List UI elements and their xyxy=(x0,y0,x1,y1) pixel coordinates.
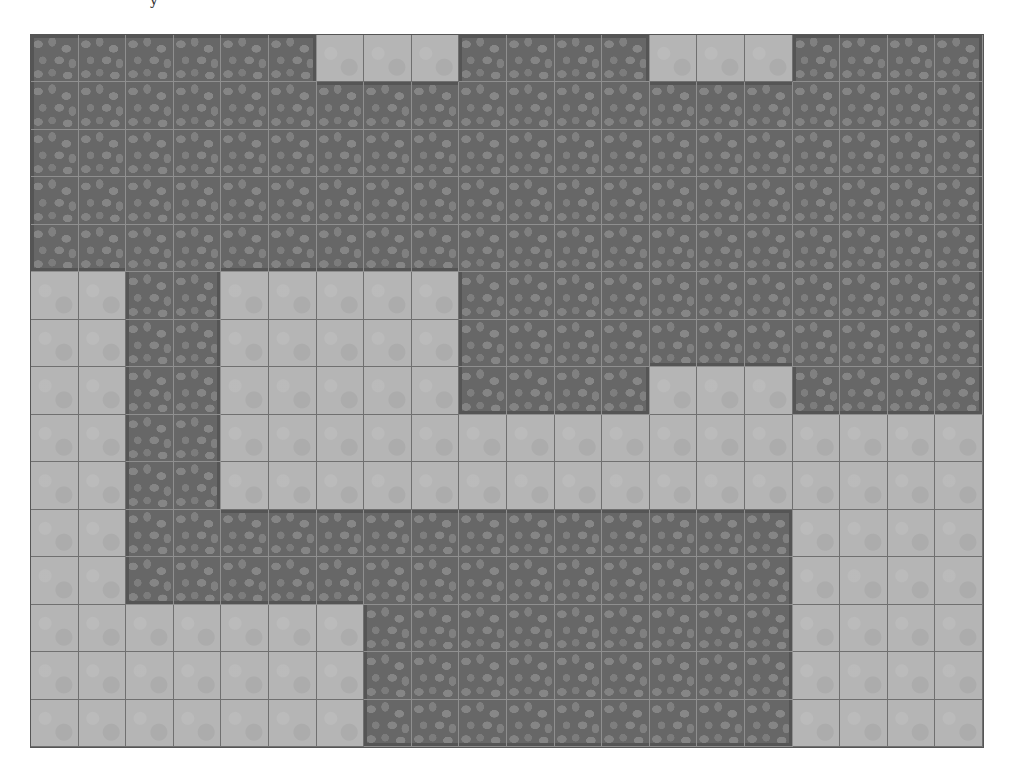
stone-wall-tile[interactable] xyxy=(507,35,555,82)
stone-wall-tile[interactable] xyxy=(555,82,603,129)
floor-tile[interactable] xyxy=(221,415,269,462)
stone-wall-tile[interactable] xyxy=(602,557,650,604)
stone-wall-tile[interactable] xyxy=(269,130,317,177)
floor-tile[interactable] xyxy=(745,367,793,414)
stone-wall-tile[interactable] xyxy=(745,272,793,319)
floor-tile[interactable] xyxy=(317,35,365,82)
stone-wall-tile[interactable] xyxy=(31,82,79,129)
floor-tile[interactable] xyxy=(745,415,793,462)
stone-wall-tile[interactable] xyxy=(745,700,793,747)
floor-tile[interactable] xyxy=(888,700,936,747)
stone-wall-tile[interactable] xyxy=(793,272,841,319)
stone-wall-tile[interactable] xyxy=(317,130,365,177)
floor-tile[interactable] xyxy=(697,367,745,414)
floor-tile[interactable] xyxy=(935,605,983,652)
stone-wall-tile[interactable] xyxy=(697,130,745,177)
stone-wall-tile[interactable] xyxy=(793,225,841,272)
stone-wall-tile[interactable] xyxy=(507,177,555,224)
stone-wall-tile[interactable] xyxy=(602,320,650,367)
floor-tile[interactable] xyxy=(840,415,888,462)
stone-wall-tile[interactable] xyxy=(840,367,888,414)
stone-wall-tile[interactable] xyxy=(697,700,745,747)
stone-wall-tile[interactable] xyxy=(555,272,603,319)
stone-wall-tile[interactable] xyxy=(650,82,698,129)
stone-wall-tile[interactable] xyxy=(935,367,983,414)
stone-wall-tile[interactable] xyxy=(555,35,603,82)
stone-wall-tile[interactable] xyxy=(697,557,745,604)
floor-tile[interactable] xyxy=(31,652,79,699)
stone-wall-tile[interactable] xyxy=(79,225,127,272)
floor-tile[interactable] xyxy=(412,320,460,367)
stone-wall-tile[interactable] xyxy=(174,35,222,82)
floor-tile[interactable] xyxy=(650,367,698,414)
stone-wall-tile[interactable] xyxy=(650,700,698,747)
floor-tile[interactable] xyxy=(697,415,745,462)
floor-tile[interactable] xyxy=(79,415,127,462)
floor-tile[interactable] xyxy=(793,700,841,747)
stone-wall-tile[interactable] xyxy=(221,130,269,177)
floor-tile[interactable] xyxy=(697,35,745,82)
stone-wall-tile[interactable] xyxy=(745,510,793,557)
stone-wall-tile[interactable] xyxy=(888,225,936,272)
stone-wall-tile[interactable] xyxy=(221,225,269,272)
stone-wall-tile[interactable] xyxy=(174,177,222,224)
stone-wall-tile[interactable] xyxy=(745,82,793,129)
floor-tile[interactable] xyxy=(935,510,983,557)
stone-wall-tile[interactable] xyxy=(412,510,460,557)
floor-tile[interactable] xyxy=(840,605,888,652)
stone-wall-tile[interactable] xyxy=(507,557,555,604)
stone-wall-tile[interactable] xyxy=(269,35,317,82)
stone-wall-tile[interactable] xyxy=(650,272,698,319)
stone-wall-tile[interactable] xyxy=(745,320,793,367)
floor-tile[interactable] xyxy=(364,367,412,414)
stone-wall-tile[interactable] xyxy=(364,652,412,699)
stone-wall-tile[interactable] xyxy=(31,35,79,82)
stone-wall-tile[interactable] xyxy=(126,82,174,129)
floor-tile[interactable] xyxy=(31,462,79,509)
floor-tile[interactable] xyxy=(507,415,555,462)
stone-wall-tile[interactable] xyxy=(412,557,460,604)
floor-tile[interactable] xyxy=(412,415,460,462)
stone-wall-tile[interactable] xyxy=(174,82,222,129)
stone-wall-tile[interactable] xyxy=(507,130,555,177)
floor-tile[interactable] xyxy=(317,652,365,699)
floor-tile[interactable] xyxy=(650,35,698,82)
stone-wall-tile[interactable] xyxy=(174,557,222,604)
floor-tile[interactable] xyxy=(650,462,698,509)
floor-tile[interactable] xyxy=(269,320,317,367)
floor-tile[interactable] xyxy=(317,367,365,414)
stone-wall-tile[interactable] xyxy=(650,557,698,604)
stone-wall-tile[interactable] xyxy=(840,130,888,177)
stone-wall-tile[interactable] xyxy=(602,130,650,177)
stone-wall-tile[interactable] xyxy=(79,177,127,224)
floor-tile[interactable] xyxy=(364,462,412,509)
floor-tile[interactable] xyxy=(602,415,650,462)
floor-tile[interactable] xyxy=(793,557,841,604)
stone-wall-tile[interactable] xyxy=(412,605,460,652)
stone-wall-tile[interactable] xyxy=(745,225,793,272)
stone-wall-tile[interactable] xyxy=(459,320,507,367)
floor-tile[interactable] xyxy=(364,35,412,82)
stone-wall-tile[interactable] xyxy=(269,557,317,604)
floor-tile[interactable] xyxy=(412,367,460,414)
floor-tile[interactable] xyxy=(79,557,127,604)
stone-wall-tile[interactable] xyxy=(459,35,507,82)
stone-wall-tile[interactable] xyxy=(126,557,174,604)
stone-wall-tile[interactable] xyxy=(507,82,555,129)
stone-wall-tile[interactable] xyxy=(79,82,127,129)
stone-wall-tile[interactable] xyxy=(650,605,698,652)
floor-tile[interactable] xyxy=(221,320,269,367)
stone-wall-tile[interactable] xyxy=(650,652,698,699)
stone-wall-tile[interactable] xyxy=(888,272,936,319)
stone-wall-tile[interactable] xyxy=(650,510,698,557)
floor-tile[interactable] xyxy=(221,605,269,652)
stone-wall-tile[interactable] xyxy=(555,510,603,557)
stone-wall-tile[interactable] xyxy=(888,177,936,224)
stone-wall-tile[interactable] xyxy=(555,177,603,224)
stone-wall-tile[interactable] xyxy=(697,177,745,224)
floor-tile[interactable] xyxy=(412,35,460,82)
floor-tile[interactable] xyxy=(79,462,127,509)
floor-tile[interactable] xyxy=(412,272,460,319)
stone-wall-tile[interactable] xyxy=(555,367,603,414)
stone-wall-tile[interactable] xyxy=(126,225,174,272)
